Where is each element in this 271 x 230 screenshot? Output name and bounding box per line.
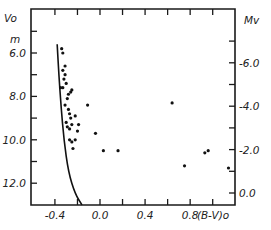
star-point: [65, 121, 68, 124]
star-point: [70, 123, 73, 126]
star-point: [61, 69, 64, 72]
color-magnitude-diagram: -0.40.00.40.86.08.010.012.0-6.0-4.0-2.00…: [0, 0, 271, 230]
star-point: [66, 97, 69, 100]
y-left-tick-label: 8.0: [9, 90, 26, 102]
star-point: [61, 51, 64, 54]
y-left-unit-label: m: [10, 33, 20, 45]
x-tick-label: 0.4: [137, 209, 154, 221]
star-point: [207, 149, 210, 152]
star-point: [71, 147, 74, 150]
star-points: [59, 47, 230, 170]
star-point: [70, 88, 73, 91]
x-tick-label: 0.0: [92, 209, 109, 221]
axis-labels: Vo m Mv (B-V)o: [4, 12, 260, 221]
y-left-tick-label: 12.0: [3, 177, 27, 189]
star-point: [69, 117, 72, 120]
star-point: [116, 149, 119, 152]
star-point: [77, 123, 80, 126]
y-left-tick-label: 6.0: [9, 47, 26, 59]
star-point: [63, 73, 66, 76]
y-right-axis-label: Mv: [244, 14, 260, 26]
star-point: [74, 138, 77, 141]
star-point: [68, 112, 71, 115]
star-point: [67, 108, 70, 111]
star-point: [70, 140, 73, 143]
axis-ticks: -0.40.00.40.86.08.010.012.0-6.0-4.0-2.00…: [3, 9, 260, 221]
star-point: [68, 127, 71, 130]
star-point: [171, 101, 174, 104]
star-point: [74, 114, 77, 117]
star-point: [102, 149, 105, 152]
star-point: [62, 77, 65, 80]
star-point: [61, 86, 64, 89]
star-point: [94, 132, 97, 135]
y-right-tick-label: -4.0: [239, 100, 260, 112]
star-point: [86, 103, 89, 106]
x-tick-label: -0.4: [45, 209, 66, 221]
star-point: [227, 166, 230, 169]
y-left-tick-label: 10.0: [3, 134, 27, 146]
y-left-axis-label: Vo: [4, 12, 17, 24]
star-point: [203, 151, 206, 154]
star-point: [65, 82, 68, 85]
star-point: [63, 103, 66, 106]
star-point: [76, 130, 79, 133]
x-axis-label: (B-V)o: [197, 209, 229, 221]
y-right-tick-label: -2.0: [239, 144, 260, 156]
y-right-tick-label: 0.0: [239, 187, 256, 199]
y-right-tick-label: -6.0: [239, 57, 260, 69]
star-point: [63, 64, 66, 67]
star-point: [60, 47, 63, 50]
star-point: [183, 164, 186, 167]
